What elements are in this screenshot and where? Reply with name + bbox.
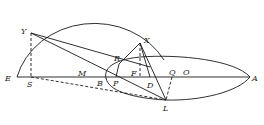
label-Y: Y xyxy=(21,27,27,36)
geometry-diagram: Y R X E S M B P F D Q O A L xyxy=(0,0,264,125)
label-X: X xyxy=(143,36,150,45)
label-Q: Q xyxy=(169,68,176,77)
label-R: R xyxy=(113,54,120,63)
label-A: A xyxy=(251,74,258,83)
label-S: S xyxy=(27,80,33,89)
label-L: L xyxy=(162,104,168,113)
line-XL xyxy=(140,43,166,100)
label-P: P xyxy=(112,79,119,88)
line-YR xyxy=(31,33,150,67)
label-D: D xyxy=(146,81,154,90)
dashed-line-QL xyxy=(166,77,172,100)
label-F: F xyxy=(130,69,137,78)
label-O: O xyxy=(183,68,190,77)
line-XD xyxy=(140,43,150,77)
label-M: M xyxy=(77,69,87,78)
line-RP xyxy=(116,64,119,77)
label-B: B xyxy=(96,79,103,88)
label-E: E xyxy=(4,74,11,83)
